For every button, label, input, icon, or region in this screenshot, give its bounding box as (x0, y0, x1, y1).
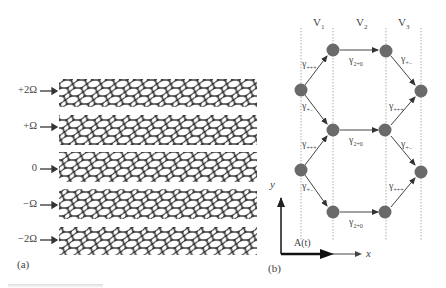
column-header-v2: V2 (356, 16, 367, 31)
edge-label-gamma-plus-minus-4: γ+− (302, 180, 313, 193)
edge-label-gamma-2-0-3: γ2+0 (349, 216, 363, 229)
column-header-v1: V1 (313, 16, 324, 31)
edge-label-gamma-plus-minus-3: γ+− (401, 138, 412, 151)
edge-label-gamma-plus-minus-2: γ+− (302, 100, 313, 113)
field-label: A(t) (294, 237, 311, 248)
edge-label-gamma-plus-plus-2: γ+++ (389, 100, 404, 113)
edge-label-gamma-2-0-1: γ2+0 (349, 54, 363, 67)
column-header-v3: V3 (398, 16, 409, 31)
edge-label-gamma-plus-minus-1: γ+− (401, 53, 412, 66)
panel-b-label: (b) (268, 262, 281, 274)
y-axis-label: y (270, 178, 275, 190)
edge-label-gamma-plus-plus-4: γ+++ (389, 180, 404, 193)
caption-cutoff (8, 284, 103, 288)
edge-label-gamma-2-0-2: γ2+0 (349, 134, 363, 147)
hopping-diagram (0, 0, 446, 288)
x-axis-label: x (366, 247, 371, 259)
edge-label-gamma-plus-plus-3: γ+++ (302, 138, 317, 151)
edge-label-gamma-plus-plus-1: γ+++ (302, 58, 317, 71)
